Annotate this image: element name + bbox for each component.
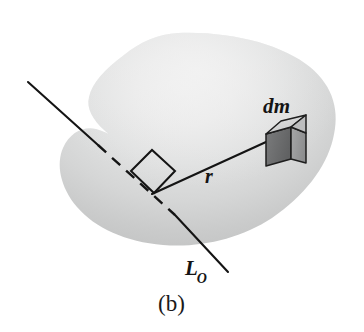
axis-label-main: L: [185, 256, 198, 280]
axis-label: LO: [185, 258, 208, 283]
figure-caption: (b): [158, 292, 185, 315]
axis-label-subscript: O: [197, 271, 207, 286]
physics-diagram-svg: [0, 0, 364, 332]
radius-label: r: [205, 166, 213, 186]
mass-element-label: dm: [263, 96, 290, 117]
axis-segment-upper-solid: [28, 82, 98, 145]
figure-container: dm r LO (b): [0, 0, 364, 332]
